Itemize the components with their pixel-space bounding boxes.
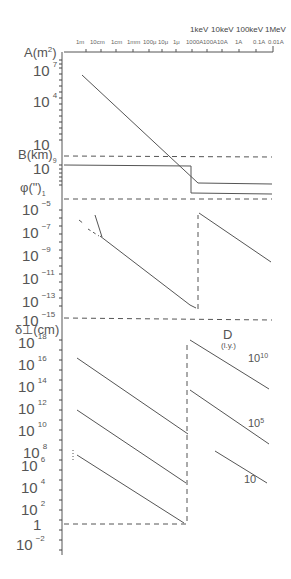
ytick-base: 10: [22, 201, 39, 218]
ytick-exp: 7: [53, 60, 57, 69]
ytick-1e6: 106: [21, 457, 45, 474]
annotation-D-1: 10: [244, 473, 256, 485]
ytick-exp: 6: [41, 455, 45, 464]
ytick-1e4: 104: [33, 93, 57, 110]
ytick-exp: −2: [36, 534, 45, 543]
length-label: 1cm: [111, 39, 122, 45]
ytick-1e-5: 10−5: [22, 201, 51, 218]
ytick-exp: −11: [42, 268, 55, 277]
annotation-base: 10: [248, 352, 260, 364]
series-A: [82, 75, 272, 184]
ytick-1: 1: [33, 516, 41, 533]
energy-label-10kev: 10keV: [211, 25, 234, 34]
ytick-base: 10: [22, 270, 39, 287]
ytick-exp: 18: [38, 332, 47, 341]
ytick-1e14: 1014: [18, 378, 47, 395]
length-label: 100A: [203, 39, 217, 45]
ytick-exp: −9: [42, 245, 51, 254]
ytick-1e12: 1012: [18, 400, 47, 417]
ytick-exp: 4: [41, 477, 45, 486]
annotation-D-1e10: 1010: [248, 352, 268, 364]
length-label: 1000A: [186, 39, 203, 45]
series-phi-dash2: [88, 229, 99, 236]
ytick-base: 10: [22, 293, 39, 310]
length-label: 0.1A: [253, 39, 265, 45]
length-label: 10A: [217, 39, 228, 45]
energy-label-1kev: 1keV: [190, 25, 208, 34]
legend-title-D: D: [223, 327, 232, 342]
ytick-base: 10: [18, 378, 35, 395]
ytick-exp: 12: [38, 398, 47, 407]
ytick-exp: 10: [38, 420, 47, 429]
separator-AB: [64, 156, 272, 157]
legend-unit-ly: (l.y.): [221, 341, 236, 350]
ytick-base: 10: [18, 356, 35, 373]
ytick-exp: −15: [42, 310, 56, 319]
length-label: 1μ: [173, 39, 180, 45]
ytick-exp: −5: [42, 199, 51, 208]
axis-label-phi-text: φ("): [20, 180, 42, 195]
ytick-exp: 16: [38, 354, 47, 363]
annotation-base: 10: [248, 417, 260, 429]
series-delta-1e10-left: [77, 358, 188, 434]
top-axis-ticks: [86, 46, 273, 52]
length-label: 1m: [76, 39, 84, 45]
ytick-exp: 2: [41, 499, 45, 508]
ytick-base: 10: [18, 334, 35, 351]
length-label: 1A: [235, 39, 242, 45]
ytick-1e-7: 10−7: [22, 224, 51, 241]
ytick-exp: 8: [43, 442, 47, 451]
series-B: [64, 165, 272, 194]
series-delta-1-left: [77, 455, 184, 523]
ytick-1e7: 107: [33, 62, 57, 79]
ytick-exp: −13: [42, 291, 56, 300]
length-label: 10μ: [158, 39, 168, 45]
ytick-1e4: 104: [21, 479, 45, 496]
axis-label-phi: φ(")1: [20, 180, 46, 197]
ytick-base: 10: [22, 247, 39, 264]
ytick-1e-11: 10−11: [22, 270, 55, 287]
length-label: 10cm: [90, 39, 105, 45]
ytick-base: 10: [18, 422, 35, 439]
ytick-exp: −7: [42, 222, 51, 231]
ytick-1e-2: 10−2: [16, 536, 45, 553]
ytick-1e-13: 10−13: [22, 293, 55, 310]
series-phi-main: [100, 236, 196, 308]
axis-label-phi-sub: 1: [42, 190, 46, 197]
ytick-exp: 14: [38, 376, 47, 385]
energy-label-1mev: 1MeV: [265, 25, 286, 34]
series-phi-dash1: [79, 220, 84, 224]
axis-label-B-sub: 9: [53, 157, 57, 164]
ytick-1e18: 1018: [18, 334, 47, 351]
ytick-base: 10: [33, 93, 50, 110]
ytick-base: 10: [16, 536, 33, 553]
energy-label-100kev: 100keV: [236, 25, 263, 34]
annotation-exp: 5: [260, 417, 264, 424]
ytick-base: 10: [21, 479, 38, 496]
axis-label-A-close: ): [52, 45, 56, 60]
ytick-B-10: 10: [33, 160, 50, 177]
axis-label-A-text: A(m: [24, 45, 48, 60]
series-phi-steep: [95, 215, 102, 237]
ytick-1e-9: 10−9: [22, 247, 51, 264]
ytick-1e10: 1010: [18, 422, 47, 439]
ytick-base: 10: [22, 224, 39, 241]
axis-label-A: A(m2): [24, 45, 57, 60]
ytick-base: 10: [21, 457, 38, 474]
annotation-D-1e5: 105: [248, 417, 264, 429]
length-label: 1mm: [127, 39, 140, 45]
series-delta-1-right: [215, 451, 267, 483]
series-phi-right: [199, 213, 271, 262]
ytick-exp: 4: [53, 91, 57, 100]
length-label: 0.01A: [268, 39, 284, 45]
length-label: 100μ: [143, 39, 156, 45]
ytick-1e16: 1016: [18, 356, 47, 373]
annotation-exp: 10: [260, 352, 268, 359]
ytick-base: 10: [33, 62, 50, 79]
ytick-base: 10: [18, 400, 35, 417]
separator-phidelta: [64, 318, 272, 320]
